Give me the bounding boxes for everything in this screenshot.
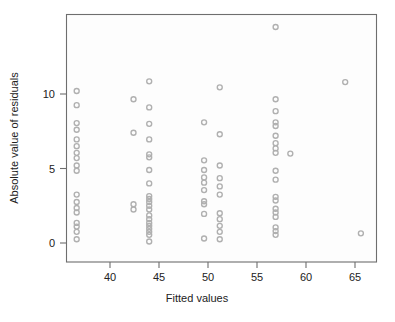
x-tick-label: 45	[153, 271, 165, 283]
y-axis-title: Absolute value of residuals	[8, 72, 20, 204]
plot-svg: 404550556065 0510 Fitted values Absolute…	[0, 0, 395, 322]
x-tick-label: 60	[300, 271, 312, 283]
y-tick-label: 5	[49, 163, 55, 175]
scatter-plot-figure: 404550556065 0510 Fitted values Absolute…	[0, 0, 395, 322]
x-tick-label: 65	[349, 271, 361, 283]
x-tick-label: 55	[251, 271, 263, 283]
x-axis-title: Fitted values	[166, 292, 229, 304]
x-tick-label: 40	[104, 271, 116, 283]
y-tick-label: 10	[43, 88, 55, 100]
y-tick-label: 0	[49, 237, 55, 249]
x-tick-label: 50	[202, 271, 214, 283]
